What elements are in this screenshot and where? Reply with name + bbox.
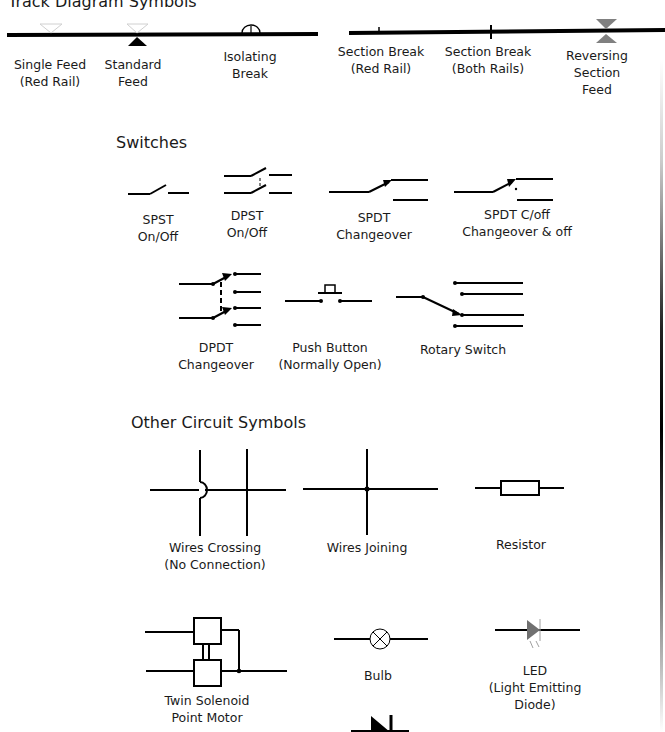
- track-section-title: Track Diagram Symbols: [8, 0, 197, 11]
- spdt-coff-icon: [454, 179, 553, 200]
- spst-label: SPST On/Off: [138, 211, 178, 245]
- single-feed-icon: [40, 24, 62, 33]
- wires-crossing-icon: [150, 449, 286, 536]
- diode-icon: [351, 715, 409, 732]
- track-left-rail: [7, 34, 318, 35]
- wires-joining-label: Wires Joining: [327, 539, 408, 556]
- led-label: LED (Light Emitting Diode): [489, 662, 582, 713]
- dpdt-label: DPDT Changeover: [178, 339, 254, 373]
- other-section-title: Other Circuit Symbols: [131, 413, 306, 432]
- track-right-rail: [349, 30, 665, 33]
- isolating-break-icon: [242, 25, 260, 33]
- spdt-label: SPDT Changeover: [336, 209, 412, 243]
- section-break-both-label: Section Break (Both Rails): [445, 43, 531, 77]
- dpst-label: DPST On/Off: [227, 207, 267, 241]
- wires-joining-icon: [303, 449, 438, 535]
- spdt-coff-label: SPDT C/off Changeover & off: [462, 206, 572, 240]
- reversing-section-feed-label: Reversing Section Feed: [563, 47, 631, 98]
- standard-feed-label: Standard Feed: [105, 56, 162, 90]
- wires-crossing-label: Wires Crossing (No Connection): [164, 539, 265, 573]
- twin-solenoid-label: Twin Solenoid Point Motor: [165, 692, 250, 726]
- isolating-break-label: Isolating Break: [223, 48, 276, 82]
- resistor-label: Resistor: [496, 536, 546, 553]
- resistor-icon: [475, 481, 564, 495]
- rotary-switch-icon: [396, 281, 524, 328]
- single-feed-label: Single Feed (Red Rail): [14, 56, 86, 90]
- bulb-label: Bulb: [364, 667, 392, 684]
- spst-icon: [128, 185, 189, 194]
- section-break-red-label: Section Break (Red Rail): [338, 43, 424, 77]
- dpst-icon: [224, 168, 292, 193]
- push-button-label: Push Button (Normally Open): [278, 339, 381, 373]
- spdt-icon: [329, 180, 428, 200]
- push-button-icon: [285, 285, 372, 303]
- page-edge-shadow: [660, 60, 663, 732]
- dpdt-icon: [179, 272, 261, 327]
- switches-section-title: Switches: [116, 133, 187, 152]
- twin-solenoid-icon: [145, 618, 287, 686]
- bulb-icon: [334, 629, 428, 649]
- rotary-switch-label: Rotary Switch: [420, 341, 506, 358]
- led-icon: [495, 619, 580, 648]
